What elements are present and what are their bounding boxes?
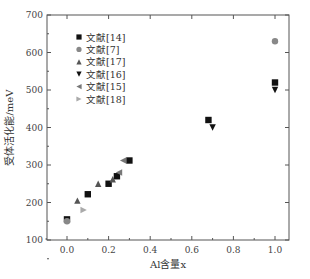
square-marker: [205, 117, 211, 123]
triangle-right-marker: [80, 207, 86, 213]
y-tick-label: 300: [26, 160, 43, 170]
x-tick-label: 0.8: [226, 245, 241, 255]
square-marker: [76, 34, 81, 39]
x-tick-label: 1.0: [268, 245, 283, 255]
legend-label: 文献[14]: [86, 32, 126, 43]
triangle-right-marker: [76, 96, 81, 101]
triangle-left-marker: [120, 157, 126, 163]
square-marker: [272, 79, 278, 85]
y-tick-label: 700: [26, 10, 43, 20]
legend-label: 文献[17]: [86, 56, 126, 67]
circle-marker: [76, 47, 81, 52]
y-tick-label: 200: [26, 198, 43, 208]
y-tick-label: 500: [26, 85, 43, 95]
legend-label: 文献[7]: [86, 44, 119, 55]
legend-label: 文献[15]: [86, 81, 126, 92]
y-tick-label: 100: [26, 235, 43, 245]
triangle-down-marker: [209, 124, 215, 130]
y-tick-label: 400: [26, 123, 43, 133]
x-axis-label: Al含量x: [149, 258, 186, 270]
triangle-down-marker: [76, 72, 81, 77]
scatter-chart: 1002003004005006007000.00.20.40.60.81.0A…: [0, 0, 310, 279]
triangle-left-marker: [76, 84, 81, 89]
circle-marker: [64, 218, 70, 224]
triangle-up-marker: [74, 197, 80, 203]
y-axis-label: 受体活化能/meV: [3, 89, 15, 166]
x-tick-label: 0.0: [60, 245, 75, 255]
triangle-down-marker: [272, 87, 278, 93]
circle-marker: [272, 38, 278, 44]
x-tick-label: 0.6: [185, 245, 200, 255]
y-tick-label: 600: [26, 48, 43, 58]
legend-label: 文献[16]: [86, 69, 126, 80]
plot-frame: [47, 15, 289, 240]
triangle-up-marker: [76, 59, 81, 64]
x-tick-label: 0.2: [101, 245, 115, 255]
x-tick-label: 0.4: [143, 245, 158, 255]
square-marker: [126, 157, 132, 163]
square-marker: [85, 191, 91, 197]
legend-label: 文献[18]: [86, 94, 126, 105]
triangle-up-marker: [95, 181, 101, 187]
